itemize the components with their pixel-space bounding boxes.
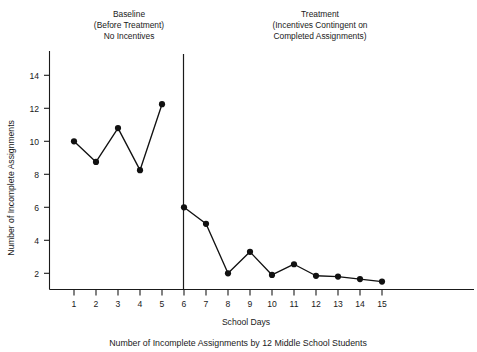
figure-caption: Number of Incomplete Assignments by 12 M… <box>109 338 367 348</box>
plot-axes <box>50 51 475 290</box>
data-point-marker <box>313 273 319 279</box>
x-tick-label: 3 <box>116 299 121 309</box>
y-tick-label: 8 <box>34 170 39 180</box>
x-tick-label: 8 <box>226 299 231 309</box>
treatment-title-line-2: (Incentives Contingent on <box>273 20 368 30</box>
x-tick-label: 10 <box>267 299 277 309</box>
baseline-title-line-2: (Before Treatment) <box>94 20 164 30</box>
data-point-marker <box>225 270 231 276</box>
data-point-marker <box>137 167 143 173</box>
data-point-marker <box>93 159 99 165</box>
phase-titles: Baseline (Before Treatment) No Incentive… <box>94 9 368 41</box>
x-tick-label: 13 <box>333 299 343 309</box>
data-point-marker <box>71 138 77 144</box>
baseline-title-line-1: Baseline <box>113 9 145 19</box>
treatment-title-line-3: Completed Assignments) <box>273 31 366 41</box>
data-series-layer <box>71 101 385 285</box>
y-tick-label: 12 <box>29 104 39 114</box>
chart-container: Baseline (Before Treatment) No Incentive… <box>0 0 477 352</box>
x-tick-label: 2 <box>94 299 99 309</box>
y-tick-label: 4 <box>34 236 39 246</box>
x-tick-label: 15 <box>377 299 387 309</box>
data-point-marker <box>203 221 209 227</box>
x-tick-label: 4 <box>138 299 143 309</box>
data-point-marker <box>379 278 385 284</box>
data-point-marker <box>357 276 363 282</box>
y-axis-ticks: 2468101214 <box>29 71 50 279</box>
data-point-marker <box>115 125 121 131</box>
y-tick-label: 6 <box>34 203 39 213</box>
data-point-marker <box>247 249 253 255</box>
treatment-title-line-1: Treatment <box>301 9 340 19</box>
series-line <box>184 207 382 281</box>
baseline-title-line-3: No Incentives <box>104 31 155 41</box>
data-point-marker <box>181 204 187 210</box>
y-axis-title: Number of Incomplete Assignments <box>6 120 16 256</box>
x-tick-label: 7 <box>204 299 209 309</box>
data-point-marker <box>159 101 165 107</box>
x-tick-label: 11 <box>290 299 299 309</box>
data-point-marker <box>291 261 297 267</box>
x-tick-label: 9 <box>248 299 253 309</box>
data-series <box>181 204 385 284</box>
x-tick-label: 6 <box>182 299 187 309</box>
y-tick-label: 2 <box>34 269 39 279</box>
x-axis-ticks: 123456789101112131415 <box>72 290 387 310</box>
x-tick-label: 14 <box>355 299 365 309</box>
x-tick-label: 1 <box>72 299 77 309</box>
data-point-marker <box>269 272 275 278</box>
y-tick-label: 14 <box>29 71 39 81</box>
y-tick-label: 10 <box>29 137 39 147</box>
single-subject-line-chart: Baseline (Before Treatment) No Incentive… <box>0 0 477 352</box>
series-line <box>74 104 162 170</box>
data-series <box>71 101 165 173</box>
data-point-marker <box>335 274 341 280</box>
x-tick-label: 12 <box>311 299 321 309</box>
x-tick-label: 5 <box>160 299 165 309</box>
x-axis-title: School Days <box>222 317 270 327</box>
